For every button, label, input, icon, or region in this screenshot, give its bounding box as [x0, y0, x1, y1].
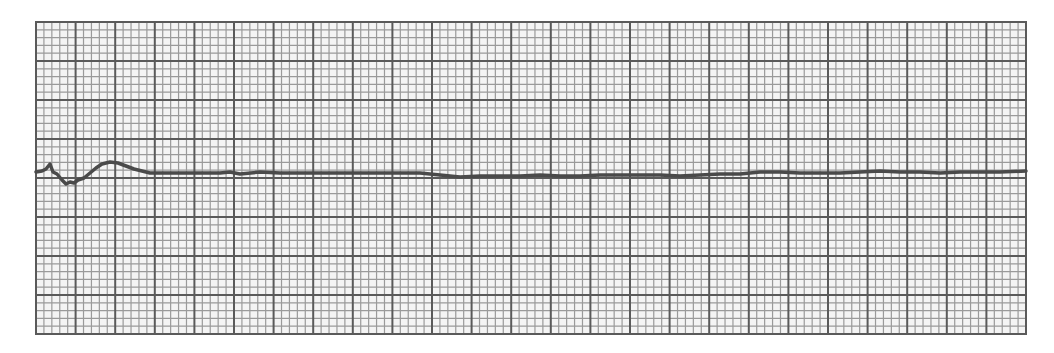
ecg-strip — [0, 0, 1054, 353]
